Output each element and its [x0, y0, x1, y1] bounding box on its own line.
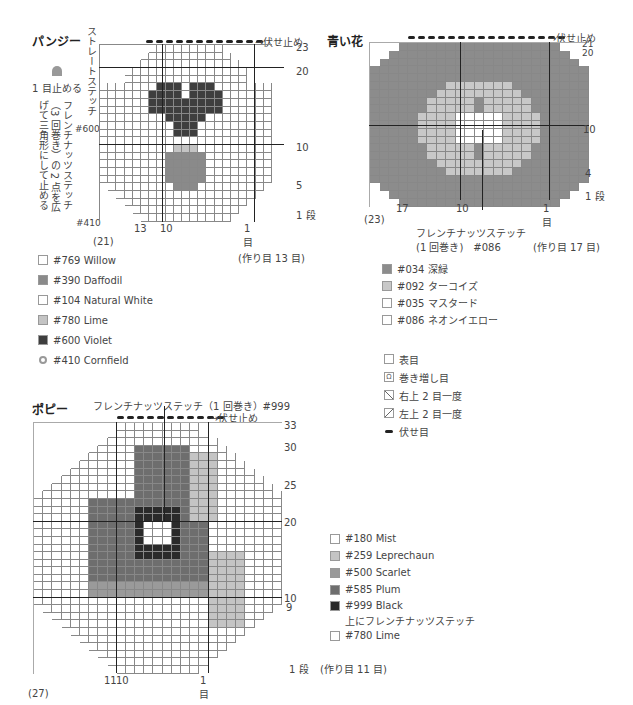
pansy-row-1: 1 段: [296, 207, 316, 222]
poppy-legend: #180 Mist #259 Leprechaun #500 Scarlet #…: [330, 530, 475, 644]
legend-item: #410 Cornfield: [38, 350, 153, 370]
poppy-row-20: 20: [284, 517, 297, 528]
blue-row-10: 10: [583, 124, 596, 135]
blue-french-knot-label: フレンチナッツステッチ: [416, 225, 526, 240]
french-knot-note: フレンチナッツステッチ（3 回巻き）の 2 点を広げて三角形にして止める: [36, 100, 72, 220]
pansy-row10-line: [99, 144, 284, 145]
bind-off-icon: [385, 430, 393, 433]
pansy-col1-line: [254, 44, 255, 222]
blue-col-1: 1: [543, 203, 549, 214]
legend-item: 右上 2 目一度: [384, 386, 462, 404]
blue-col-17: 17: [396, 203, 409, 214]
poppy-total: (27): [28, 688, 49, 699]
poppy-chart-grid: [33, 422, 282, 674]
poppy-col-1: 1: [200, 675, 206, 686]
legend-item: #180 Mist: [330, 530, 475, 547]
straight-stitch-label: ストレートステッチ: [84, 26, 96, 116]
blue-flower-title: 青い花: [327, 32, 363, 49]
blue-row10-line: [369, 125, 589, 126]
legend-item: #780 Lime: [38, 310, 153, 330]
legend-item: #104 Natural White: [38, 290, 153, 310]
blue-col1-line: [549, 42, 550, 200]
pansy-col10-line: [162, 44, 163, 222]
stop-stitch-icon: [52, 66, 62, 76]
blue-bind-off-marks: [408, 36, 565, 39]
blue-row-20: 20: [582, 49, 593, 58]
poppy-row-9: 9: [286, 603, 292, 612]
poppy-row-30: 30: [284, 442, 297, 453]
pansy-col-13: 13: [134, 223, 147, 234]
legend-item: #500 Scarlet: [330, 564, 475, 581]
pansy-total: (21): [93, 236, 114, 247]
pansy-row20-line: [99, 67, 284, 68]
pansy-col-1: 1: [244, 223, 250, 234]
pansy-bind-off-marks: [146, 40, 263, 43]
pansy-col-unit: 目: [243, 234, 253, 249]
legend-item: Ω巻き増し目: [384, 368, 462, 386]
legend-item: #585 Plum: [330, 581, 475, 598]
poppy-cast-on: (作り目 11 目): [320, 661, 387, 676]
legend-item: #999 Black: [330, 598, 475, 613]
pansy-legend: #769 Willow #390 Daffodil #104 Natural W…: [38, 250, 153, 370]
legend-item: #390 Daffodil: [38, 270, 153, 290]
right-decrease-icon: [384, 390, 394, 400]
blue-row-4: 4: [585, 168, 591, 179]
blue-total: (23): [364, 214, 385, 225]
legend-note: 上にフレンチナッツステッチ: [330, 613, 475, 627]
pansy-col-10: 10: [160, 223, 173, 234]
legend-item: #092 ターコイズ: [382, 277, 498, 294]
left-decrease-icon: [384, 408, 394, 418]
straight-stitch-color: #600: [75, 124, 100, 134]
pansy-row-23: 23: [296, 42, 309, 53]
poppy-row10-line: [33, 597, 282, 598]
poppy-row-33: 33: [284, 420, 297, 431]
poppy-row-1: 1 段: [289, 661, 309, 676]
poppy-col-10: 10: [116, 675, 129, 686]
legend-item: 伏せ目: [384, 422, 462, 440]
pansy-row-20: 20: [296, 66, 309, 77]
blue-col-10: 10: [456, 203, 469, 214]
blue-french-knot-detail: (1 回巻き) #086: [416, 239, 501, 254]
blue-cast-on: (作り目 17 目): [533, 239, 600, 254]
french-knot-color: #410: [76, 218, 101, 228]
legend-item: #086 ネオンイエロー: [382, 311, 498, 328]
poppy-title: ポピー: [32, 400, 68, 417]
legend-item: #780 Lime: [330, 627, 475, 644]
poppy-french-knot-label: フレンチナッツステッチ（1 回巻き）#999: [93, 398, 290, 413]
legend-item: 表目: [384, 350, 462, 368]
legend-item: #769 Willow: [38, 250, 153, 270]
poppy-col10-line: [116, 422, 117, 673]
legend-item: 左上 2 目一度: [384, 404, 462, 422]
legend-item: #600 Violet: [38, 330, 153, 350]
french-knot-pointer: [482, 130, 483, 210]
pansy-cast-on: (作り目 13 目): [238, 250, 305, 265]
symbol-legend: 表目 Ω巻き増し目 右上 2 目一度 左上 2 目一度 伏せ目: [384, 350, 462, 440]
pansy-chart-grid: [99, 44, 272, 222]
pansy-row-5: 5: [296, 180, 302, 191]
poppy-row20-line: [33, 521, 282, 522]
wrap-increase-icon: Ω: [384, 372, 394, 382]
stop-one-label: 1 目止める: [32, 80, 82, 95]
poppy-col-11: 11: [104, 675, 117, 686]
legend-item: #035 マスタード: [382, 294, 498, 311]
legend-item: #034 深緑: [382, 260, 498, 277]
poppy-col1-line: [208, 422, 209, 673]
pansy-title: パンジー: [32, 32, 81, 49]
poppy-col-unit: 目: [199, 686, 209, 701]
poppy-bind-off-marks: [117, 416, 224, 419]
pansy-row-10: 10: [296, 142, 309, 153]
legend-item: #259 Leprechaun: [330, 547, 475, 564]
blue-col-unit: 目: [542, 214, 552, 229]
blue-col10-line: [460, 42, 461, 200]
blue-row-1: 1 段: [585, 188, 605, 203]
poppy-french-knot-pointer: [164, 406, 165, 521]
poppy-row-25: 25: [284, 480, 297, 491]
knit-symbol-icon: [384, 354, 394, 364]
blue-legend: #034 深緑 #092 ターコイズ #035 マスタード #086 ネオンイエ…: [382, 260, 498, 328]
